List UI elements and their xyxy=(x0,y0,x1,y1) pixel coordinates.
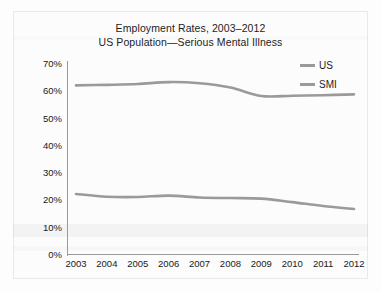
chart-legend: USSMI xyxy=(300,57,366,95)
x-tick-label: 2006 xyxy=(158,258,179,269)
chart-figure: Employment Rates, 2003–2012 US Populatio… xyxy=(0,0,381,292)
y-tick-label: 10% xyxy=(4,221,62,232)
x-axis-tick-labels: 2003200420052006200720082009201020112012 xyxy=(67,258,359,274)
legend-item-label: US xyxy=(319,60,333,71)
x-tick-label: 2008 xyxy=(220,258,241,269)
x-tick-label: 2009 xyxy=(251,258,272,269)
chart-title-line2: US Population—Serious Mental Illness xyxy=(13,36,368,50)
y-tick-label: 20% xyxy=(4,194,62,205)
chart-title-line1: Employment Rates, 2003–2012 xyxy=(13,22,368,36)
x-tick-label: 2005 xyxy=(127,258,148,269)
y-tick-label: 40% xyxy=(4,139,62,150)
legend-item-smi[interactable]: SMI xyxy=(300,76,366,92)
chart-title: Employment Rates, 2003–2012 US Populatio… xyxy=(13,22,368,49)
x-tick-label: 2010 xyxy=(282,258,303,269)
y-tick-label: 50% xyxy=(4,112,62,123)
x-tick-label: 2011 xyxy=(313,258,333,269)
legend-item-label: SMI xyxy=(319,79,337,90)
x-tick-label: 2003 xyxy=(65,258,86,269)
x-tick-label: 2007 xyxy=(189,258,210,269)
y-axis-tick-labels: 0%10%20%30%40%50%60%70% xyxy=(0,0,62,292)
y-tick-label: 70% xyxy=(4,58,62,69)
legend-line-swatch-icon xyxy=(300,83,315,86)
legend-item-us[interactable]: US xyxy=(300,57,366,73)
legend-line-swatch-icon xyxy=(300,64,315,67)
x-axis-line xyxy=(67,254,359,255)
y-tick-label: 0% xyxy=(4,249,62,260)
series-line-smi xyxy=(76,194,354,209)
x-tick-label: 2012 xyxy=(343,258,364,269)
y-tick-label: 60% xyxy=(4,85,62,96)
y-tick-label: 30% xyxy=(4,167,62,178)
x-tick-label: 2004 xyxy=(96,258,117,269)
